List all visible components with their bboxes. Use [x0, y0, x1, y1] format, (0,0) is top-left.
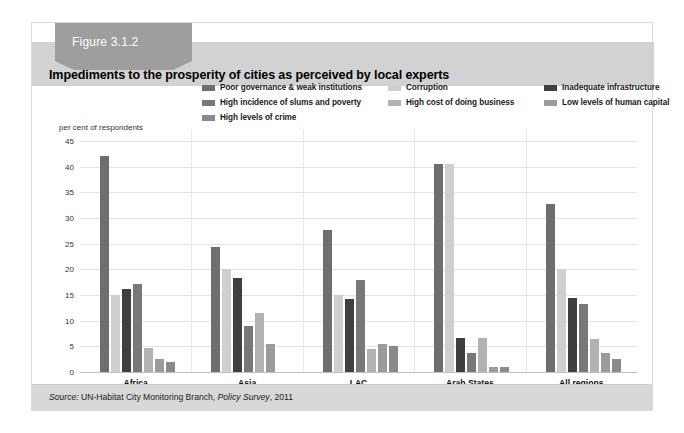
- legend-item[interactable]: High incidence of slums and poverty: [202, 98, 361, 107]
- legend-swatch-icon: [202, 115, 215, 121]
- bar[interactable]: [345, 299, 354, 372]
- bar[interactable]: [546, 204, 555, 372]
- source-year: , 2011: [270, 392, 293, 402]
- legend-item[interactable]: High levels of crime: [202, 113, 296, 122]
- group-separator: [414, 129, 415, 372]
- bar[interactable]: [456, 338, 465, 372]
- legend-swatch-icon: [202, 100, 215, 106]
- legend-label: High incidence of slums and poverty: [220, 98, 361, 107]
- bar[interactable]: [568, 298, 577, 372]
- legend-swatch-icon: [388, 85, 401, 91]
- legend-label: High levels of crime: [220, 113, 296, 122]
- legend-label: Poor governance & weak institutions: [220, 83, 362, 92]
- figure-number-tab: Figure 3.1.2: [55, 23, 192, 61]
- legend-item[interactable]: Corruption: [388, 83, 448, 92]
- bar[interactable]: [356, 280, 365, 372]
- bar[interactable]: [445, 164, 454, 372]
- bar-stack: [100, 141, 177, 372]
- legend-label: High cost of doing business: [406, 98, 514, 107]
- bar[interactable]: [211, 247, 220, 372]
- bar[interactable]: [579, 304, 588, 372]
- bar-chart-canvas: 051015202530354045AfricaAsiaLACArab Stat…: [80, 141, 637, 372]
- bar[interactable]: [155, 359, 164, 372]
- legend-swatch-icon: [544, 85, 557, 91]
- bar[interactable]: [133, 284, 142, 372]
- bar[interactable]: [500, 367, 509, 372]
- bar[interactable]: [478, 338, 487, 372]
- source-note: Source: UN-Habitat City Monitoring Branc…: [49, 392, 293, 402]
- bar[interactable]: [323, 230, 332, 372]
- source-body: UN-Habitat City Monitoring Branch,: [79, 392, 218, 402]
- bar[interactable]: [144, 348, 153, 372]
- legend-row: Poor governance & weak institutionsCorru…: [202, 83, 650, 98]
- legend-label: Inadequate infrastructure: [562, 83, 659, 92]
- y-axis-tick-label: 20: [65, 265, 74, 274]
- bar[interactable]: [100, 156, 109, 372]
- bar[interactable]: [590, 339, 599, 372]
- bar-stack: [323, 141, 400, 372]
- bar-group: Arab States: [414, 141, 525, 372]
- legend-row: High incidence of slums and povertyHigh …: [202, 98, 650, 113]
- y-axis-tick-label: 25: [65, 239, 74, 248]
- legend-swatch-icon: [388, 100, 401, 106]
- gridline: 0: [80, 372, 637, 373]
- legend-swatch-icon: [202, 85, 215, 91]
- source-prefix: Source:: [49, 392, 79, 402]
- legend-item[interactable]: Low levels of human capital: [544, 98, 669, 107]
- y-axis-tick-label: 5: [70, 342, 74, 351]
- bar[interactable]: [266, 344, 275, 372]
- y-axis-tick-label: 45: [65, 137, 74, 146]
- bar[interactable]: [367, 349, 376, 372]
- legend-label: Low levels of human capital: [562, 98, 669, 107]
- y-axis-tick-label: 40: [65, 162, 74, 171]
- source-band: Source: UN-Habitat City Monitoring Branc…: [32, 384, 652, 410]
- bar[interactable]: [166, 362, 175, 372]
- group-separator: [191, 129, 192, 372]
- source-publication: Policy Survey: [218, 392, 270, 402]
- bar[interactable]: [557, 269, 566, 372]
- bar[interactable]: [467, 353, 476, 372]
- figure-title: Impediments to the prosperity of cities …: [49, 68, 649, 82]
- group-separator: [303, 129, 304, 372]
- y-axis-tick-label: 30: [65, 214, 74, 223]
- bar-stack: [434, 141, 511, 372]
- figure-card: Figure 3.1.2 Impediments to the prosperi…: [31, 22, 653, 411]
- bar[interactable]: [111, 295, 120, 372]
- bar[interactable]: [489, 367, 498, 372]
- y-axis-tick-label: 10: [65, 316, 74, 325]
- bar[interactable]: [222, 269, 231, 372]
- group-separator: [526, 129, 527, 372]
- bar[interactable]: [612, 359, 621, 372]
- bar[interactable]: [389, 346, 398, 372]
- legend-item[interactable]: Poor governance & weak institutions: [202, 83, 362, 92]
- bar-group: Africa: [80, 141, 191, 372]
- bar[interactable]: [378, 344, 387, 372]
- bar[interactable]: [255, 313, 264, 372]
- bar-group: All regions: [526, 141, 637, 372]
- y-axis-tick-label: 0: [70, 368, 74, 377]
- bar[interactable]: [122, 289, 131, 372]
- bar[interactable]: [601, 353, 610, 373]
- plot-area: per cent of respondents 0510152025303540…: [32, 123, 654, 385]
- y-axis-tick-label: 15: [65, 291, 74, 300]
- legend-swatch-icon: [544, 100, 557, 106]
- y-axis-unit-label: per cent of respondents: [59, 123, 143, 132]
- bar-stack: [211, 141, 288, 372]
- y-axis-tick-label: 35: [65, 188, 74, 197]
- bar[interactable]: [233, 278, 242, 372]
- bar[interactable]: [434, 164, 443, 372]
- bar-stack: [546, 141, 623, 372]
- bar[interactable]: [244, 326, 253, 372]
- chart-legend: Poor governance & weak institutionsCorru…: [202, 83, 650, 128]
- bar[interactable]: [334, 295, 343, 372]
- bar-group: Asia: [191, 141, 302, 372]
- legend-label: Corruption: [406, 83, 448, 92]
- legend-item[interactable]: Inadequate infrastructure: [544, 83, 659, 92]
- legend-item[interactable]: High cost of doing business: [388, 98, 514, 107]
- bar-group: LAC: [303, 141, 414, 372]
